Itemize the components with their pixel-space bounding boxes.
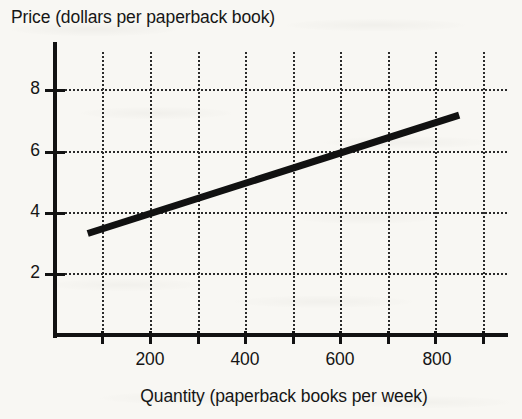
plot-area: 8 6 4 2 200 400 600 800	[0, 0, 522, 419]
x-axis-title: Quantity (paperback books per week)	[0, 386, 522, 407]
supply-curve-figure: Price (dollars per paperback book)	[0, 0, 522, 419]
supply-line-segment	[88, 115, 459, 233]
supply-curve-line	[0, 0, 522, 419]
